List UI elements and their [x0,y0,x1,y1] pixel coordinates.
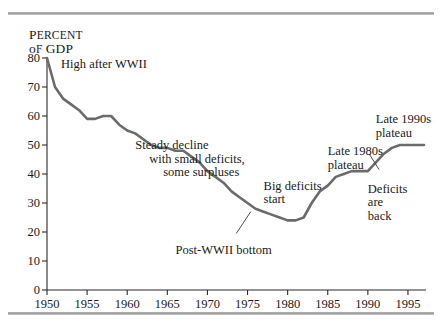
annotation-deficits-are-back: Deficitsareback [368,183,408,224]
y-axis-tick-label: 60 [16,110,40,122]
x-axis-tick-label: 1985 [305,298,351,310]
annotation-line: plateau [376,127,431,141]
y-axis-tick-label: 30 [16,197,40,209]
annotation-post-wwii-bottom: Post-WWII bottom [175,244,271,258]
annotation-high-after-wwii: High after WWII [61,58,147,72]
x-axis-tick-label: 1960 [104,298,150,310]
x-axis-tick-label: 1975 [225,298,271,310]
annotation-line: some surpluses [135,166,244,180]
y-axis-tick-label: 0 [16,284,40,296]
annotation-big-deficits-start: Big deficitsstart [264,180,322,207]
annotation-late-1990s-plateau: Late 1990splateau [376,113,431,140]
y-axis-tick-label: 80 [16,52,40,64]
annotation-line: are [368,196,408,210]
annotation-line: Late 1990s [376,113,431,127]
x-axis-tick-label: 1965 [144,298,190,310]
y-axis-tick-label: 10 [16,255,40,267]
chart-figure: PERCENT oF GDP 01020304050607080 1950195… [0,0,442,329]
x-axis-tick-label: 1970 [184,298,230,310]
y-axis-tick-label: 40 [16,168,40,180]
x-axis-tick-label: 1980 [265,298,311,310]
annotation-line: Deficits [368,183,408,197]
annotation-steady-decline: Steady declinewith small deficits,some s… [135,139,244,180]
x-axis-tick-label: 1950 [24,298,70,310]
annotation-line: Big deficits [264,180,322,194]
annotation-line: Steady decline [135,139,244,153]
annotation-line: Post-WWII bottom [175,244,271,258]
x-axis-tick-label: 1995 [385,298,431,310]
leader-line-post-wwii-bottom [236,212,250,234]
annotation-line: start [264,193,322,207]
annotation-line: back [368,210,408,224]
x-axis-tick-label: 1955 [64,298,110,310]
annotation-late-1980s-plateau: Late 1980splateau [328,145,383,172]
annotation-line: High after WWII [61,58,147,72]
annotation-line: with small deficits, [135,153,244,167]
y-axis-tick-label: 70 [16,81,40,93]
annotation-line: Late 1980s [328,145,383,159]
y-axis-tick-label: 20 [16,226,40,238]
x-axis-tick-label: 1990 [345,298,391,310]
annotation-line: plateau [328,159,383,173]
y-axis-tick-label: 50 [16,139,40,151]
